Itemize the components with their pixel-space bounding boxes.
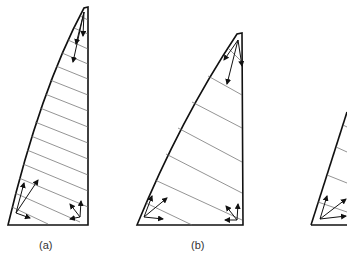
sail-b-hatching (146, 48, 242, 225)
force-arrows-b (144, 40, 242, 220)
panel-label-a: (a) (39, 239, 52, 251)
sail-b (137, 33, 243, 225)
sail-c (311, 112, 347, 225)
sail-diagram (0, 0, 347, 269)
force-arrows-a (16, 12, 84, 219)
panel-label-b: (b) (191, 239, 204, 251)
sail-a (8, 7, 88, 225)
sail-c-hatching (318, 125, 347, 212)
